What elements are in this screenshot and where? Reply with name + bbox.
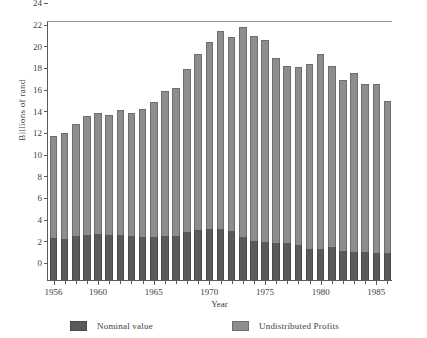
bar-segment-undistributed-profits [194,54,202,230]
bar-segment-nominal-value [295,245,303,280]
bar-segment-undistributed-profits [328,66,336,247]
x-tick-1977 [287,280,288,284]
bar-segment-undistributed-profits [373,84,381,252]
x-tick-1976 [276,280,277,284]
y-tick-label: 12 [33,128,42,138]
chart-figure: Billions of rand 024681012141618202224 1… [0,0,427,338]
bar-1972 [228,37,236,280]
x-tick-1963 [131,280,132,284]
bar-segment-undistributed-profits [183,69,191,232]
bar-segment-undistributed-profits [384,101,392,253]
y-tick-label: 6 [38,193,43,203]
bar-segment-nominal-value [150,237,158,280]
x-tick-1966 [165,280,166,284]
x-tick-label-1970: 1970 [200,287,218,297]
y-tick-0: 0 [38,253,49,271]
bar-segment-nominal-value [128,236,136,280]
bar-1976 [272,58,280,280]
y-tick-mark [44,263,48,264]
bar-1985 [373,84,381,280]
y-tick-8: 8 [38,166,49,184]
bar-segment-nominal-value [206,229,214,280]
bar-segment-nominal-value [228,231,236,280]
bar-series-container [48,22,392,280]
x-tick-1959 [87,280,88,284]
y-axis-title: Billions of rand [17,40,27,180]
bar-segment-nominal-value [139,237,147,280]
x-tick-label-1975: 1975 [256,287,274,297]
bar-segment-nominal-value [328,247,336,280]
x-tick-1967 [176,280,177,284]
y-tick-label: 24 [33,0,42,8]
bar-1958 [72,124,80,280]
bar-1980 [317,54,325,280]
bar-1962 [117,110,125,280]
x-tick-1968 [187,280,188,284]
bar-segment-undistributed-profits [261,40,269,242]
bar-1959 [83,116,91,280]
bar-segment-undistributed-profits [172,88,180,235]
bar-segment-nominal-value [83,235,91,281]
y-tick-10: 10 [33,145,48,163]
bar-1969 [194,54,202,280]
x-tick-1964 [143,280,144,284]
y-tick-label: 8 [38,172,43,182]
x-tick-1981 [332,280,333,284]
bar-segment-nominal-value [339,251,347,280]
bar-segment-nominal-value [272,243,280,280]
bar-1977 [283,66,291,280]
bar-segment-undistributed-profits [83,116,91,234]
x-tick-1957 [65,280,66,284]
x-tick-1961 [109,280,110,284]
bar-segment-nominal-value [217,229,225,280]
bar-1970 [206,42,214,280]
bar-1971 [217,31,225,280]
x-tick-1986 [387,280,388,284]
legend-item-nominal-value: Nominal value [70,316,153,328]
bar-segment-undistributed-profits [117,110,125,235]
bar-segment-nominal-value [283,243,291,280]
x-tick-1962 [120,280,121,284]
y-tick-label: 16 [33,85,42,95]
bar-1984 [361,84,369,280]
bar-segment-undistributed-profits [139,109,147,237]
bar-1965 [150,102,158,280]
bar-segment-undistributed-profits [94,113,102,234]
y-tick-mark [44,68,48,69]
bar-segment-nominal-value [94,234,102,280]
bar-segment-undistributed-profits [250,36,258,241]
bar-segment-nominal-value [306,249,314,280]
y-tick-16: 16 [33,80,48,98]
x-tick-1958 [76,280,77,284]
bar-1960 [94,113,102,280]
x-tick-label-1956: 1956 [45,287,63,297]
y-tick-24: 24 [33,0,48,11]
y-tick-label: 2 [38,237,43,247]
bar-segment-nominal-value [373,253,381,280]
y-tick-mark [44,3,48,4]
bar-segment-undistributed-profits [272,58,280,243]
x-axis-title: Year [47,299,392,309]
bar-segment-undistributed-profits [217,31,225,228]
y-tick-mark [44,198,48,199]
bar-1981 [328,66,336,281]
x-tick-1985 [376,280,377,285]
bar-segment-undistributed-profits [228,37,236,231]
bar-segment-undistributed-profits [150,102,158,237]
y-tick-label: 4 [38,215,43,225]
bar-1966 [161,91,169,280]
bar-segment-nominal-value [194,230,202,280]
plot-area: 024681012141618202224 195619601965197019… [47,21,392,281]
x-tick-1975 [265,280,266,285]
bar-segment-undistributed-profits [295,67,303,245]
bar-segment-undistributed-profits [61,133,69,239]
bar-1956 [50,136,58,280]
bar-1975 [261,40,269,280]
x-tick-1980 [321,280,322,285]
bar-segment-undistributed-profits [306,64,314,249]
x-tick-1983 [354,280,355,284]
y-tick-mark [44,111,48,112]
bar-segment-undistributed-profits [206,42,214,228]
y-tick-label: 0 [38,258,43,268]
bar-segment-nominal-value [250,241,258,280]
